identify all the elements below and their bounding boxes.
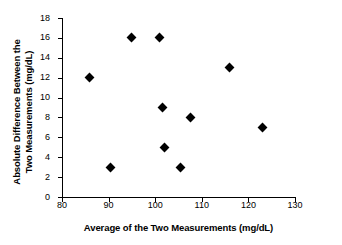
x-tick-label: 90 [94,201,124,210]
y-axis-title-line1: Absolute Difference Between the [11,12,23,212]
y-axis-title: Absolute Difference Between the Two Meas… [11,12,35,212]
y-tick-mark [58,98,62,99]
x-axis-line [62,197,296,198]
y-axis-title-line2: Two Measurements (mg/dL) [23,12,35,212]
x-tick-label: 100 [140,201,170,210]
y-tick-mark [58,58,62,59]
y-tick-mark [58,157,62,158]
y-tick-mark [58,137,62,138]
y-tick-mark [58,117,62,118]
x-tick-label: 110 [187,201,217,210]
y-axis-line [62,18,63,198]
x-axis-title: Average of the Two Measurements (mg/dL) [62,222,295,233]
y-tick-mark [58,18,62,19]
y-tick-mark [58,177,62,178]
y-tick-mark [58,38,62,39]
x-tick-label: 120 [233,201,263,210]
x-tick-label: 130 [280,201,310,210]
scatter-chart: 024681012141618 8090100110120130 Average… [0,0,342,245]
y-tick-mark [58,78,62,79]
x-tick-label: 80 [47,201,77,210]
